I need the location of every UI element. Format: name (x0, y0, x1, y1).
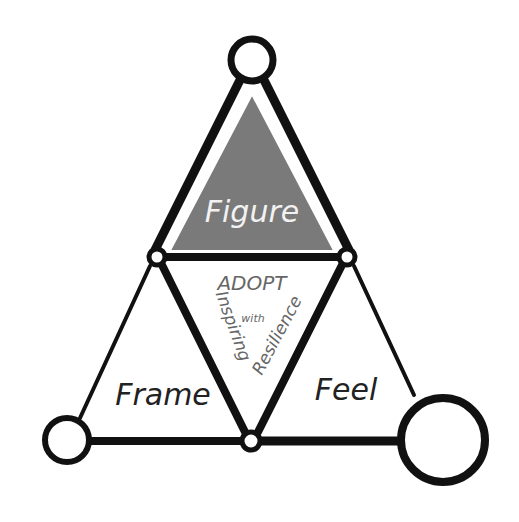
with-label: with (241, 312, 264, 325)
inspiring-label: Inspiring (212, 288, 256, 364)
mid-left-node (149, 249, 165, 265)
resilience-label: Resilience (248, 292, 306, 378)
mid-right-node (339, 249, 355, 265)
bottom-mid-node (242, 432, 260, 450)
bottom-left-node (45, 418, 89, 462)
adopt-diagram: Figure Frame Feel ADOPT with Inspiring R… (0, 0, 519, 522)
bottom-right-node (401, 398, 485, 482)
figure-label: Figure (205, 194, 299, 229)
frame-label: Frame (115, 377, 211, 412)
feel-label: Feel (315, 372, 378, 407)
top-node (231, 39, 273, 81)
